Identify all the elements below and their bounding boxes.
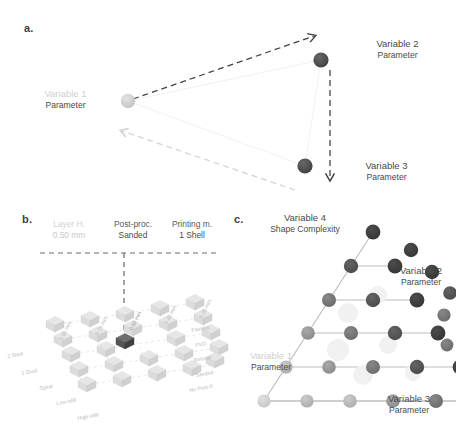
label-c-variable-3: Variable 3 Parameter <box>370 393 448 416</box>
label-variable-3-title: Variable 3 <box>339 160 434 172</box>
label-c-variable-2-subtitle: Parameter <box>386 277 456 288</box>
label-variable-3: Variable 3 Parameter <box>339 160 434 183</box>
label-variable-1: Variable 1 Parameter <box>18 88 113 111</box>
arrow-v3-to-v1 <box>122 131 295 190</box>
node-variable-3 <box>297 158 312 173</box>
node-variable-1 <box>121 94 135 108</box>
panel-c: c. <box>228 205 454 434</box>
label-variable-4-title: Variable 4 <box>255 212 355 224</box>
label-c-variable-1: Variable 1 Parameter <box>232 350 310 373</box>
label-variable-1-title: Variable 1 <box>18 88 113 100</box>
label-c-variable-1-subtitle: Parameter <box>232 362 310 373</box>
node-variable-2 <box>313 52 328 67</box>
label-c-variable-1-title: Variable 1 <box>232 350 310 362</box>
label-variable-2-subtitle: Parameter <box>350 50 445 61</box>
label-variable-3-subtitle: Parameter <box>339 172 434 183</box>
label-c-variable-2: Variable 2 Parameter <box>386 265 456 288</box>
label-c-variable-3-subtitle: Parameter <box>370 405 448 416</box>
receding-nodes <box>404 243 456 383</box>
panel-b-lattice <box>0 205 228 434</box>
selected-cell <box>116 333 134 349</box>
label-variable-4: Variable 4 Shape Complexity <box>255 212 355 235</box>
panel-b: b. Layer H. 0.50 mm Post-proc. Sanded Pr… <box>0 205 228 434</box>
label-variable-2-title: Variable 2 <box>350 38 445 50</box>
label-variable-2: Variable 2 Parameter <box>350 38 445 61</box>
label-c-variable-2-title: Variable 2 <box>386 265 456 277</box>
panel-a: a. Vari <box>0 0 454 205</box>
label-variable-1-subtitle: Parameter <box>18 100 113 111</box>
label-c-variable-3-title: Variable 3 <box>370 393 448 405</box>
label-variable-4-subtitle: Shape Complexity <box>255 224 355 235</box>
